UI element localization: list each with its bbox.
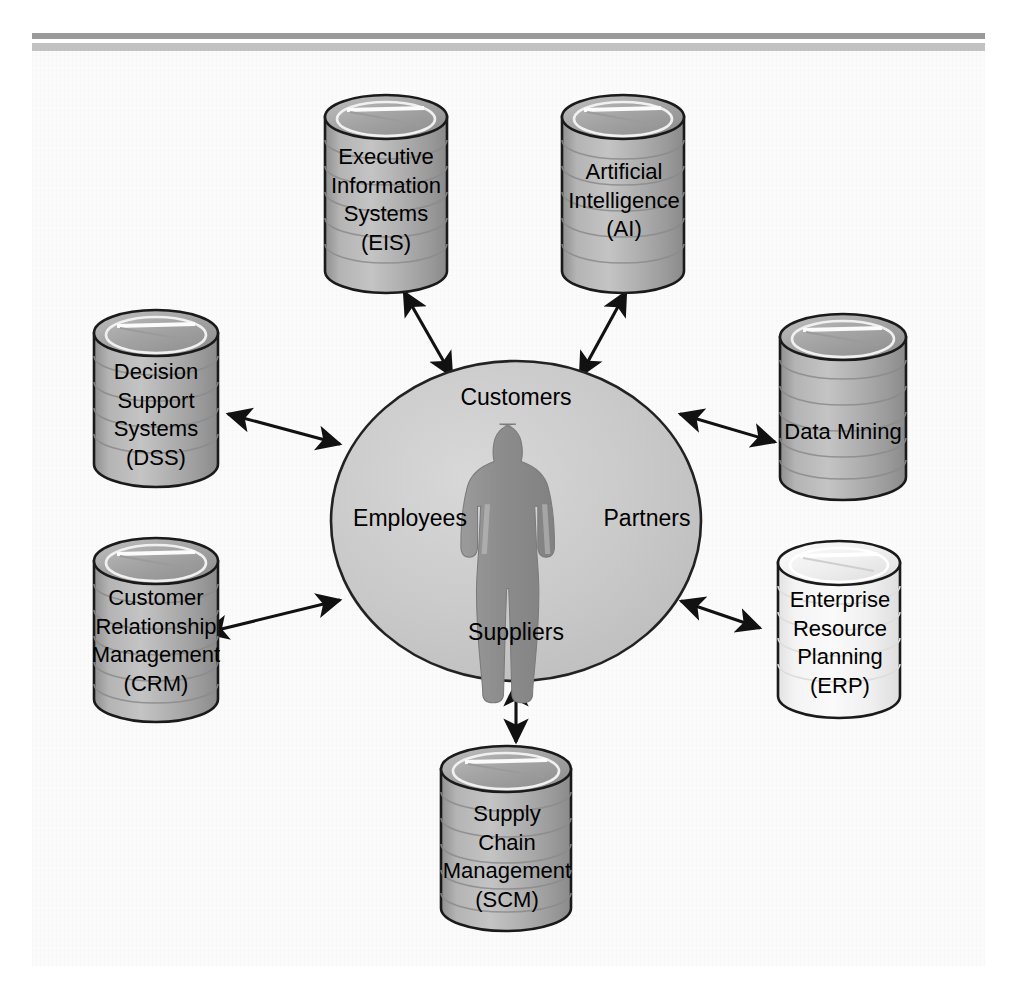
connector-crm: [205, 600, 340, 633]
database-cylinder-ai: [562, 95, 684, 293]
database-cylinder-eis: [325, 95, 447, 293]
database-cylinder-erp: [778, 541, 900, 718]
database-cylinder-scm: [441, 746, 571, 931]
connector-data-mining: [680, 414, 775, 442]
connector-eis: [404, 292, 452, 376]
figure-page: Executive Information Systems (EIS) Arti…: [0, 0, 1009, 983]
database-cylinder-dss: [94, 310, 218, 487]
database-cylinder-data-mining: [780, 314, 906, 500]
database-cylinder-crm: [94, 538, 218, 722]
diagram-graphics: [0, 0, 1009, 983]
connector-dss: [228, 414, 340, 444]
connector-ai: [580, 292, 626, 376]
connector-erp: [681, 601, 760, 628]
